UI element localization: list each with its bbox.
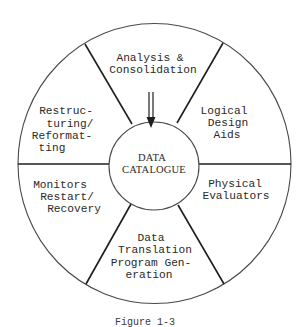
segment-label-line: Data — [138, 232, 165, 244]
segment-label-line: Restart/ — [40, 191, 94, 203]
segment-label-line: Reformat- — [32, 130, 92, 142]
segment-label-line: eration — [126, 269, 173, 281]
segment-label-line: Recovery — [47, 203, 101, 215]
segment-physical-evaluators: Physical Evaluators — [202, 178, 269, 202]
hub-label-line-1: DATA — [138, 152, 166, 163]
segment-label-line: Monitors — [33, 179, 87, 191]
segment-label-line: Analysis & — [116, 52, 183, 64]
segment-label-line: Logical — [201, 105, 248, 117]
segment-label-line: ting — [39, 142, 66, 154]
segment-label-line: Physical — [208, 178, 262, 190]
segment-label-line: Restruc- — [39, 105, 93, 117]
segment-label-line: Translation — [118, 244, 192, 256]
segment-label-line: Aids — [214, 129, 241, 141]
segment-label-line: turing/ — [47, 118, 94, 130]
segment-label-line: Program Gen- — [111, 257, 192, 269]
hub-label-line-2: CATALOGUE — [122, 164, 186, 175]
segment-label-line: Evaluators — [202, 190, 269, 202]
figure-caption: Figure 1-3 — [115, 317, 175, 327]
segment-label-line: Design — [208, 117, 248, 129]
segment-analysis-consolidation: Analysis & Consolidation — [109, 52, 196, 76]
data-catalogue-wheel-diagram: DATA CATALOGUE Analysis & Consolidation … — [0, 0, 304, 327]
segment-label-line: Consolidation — [109, 64, 196, 76]
